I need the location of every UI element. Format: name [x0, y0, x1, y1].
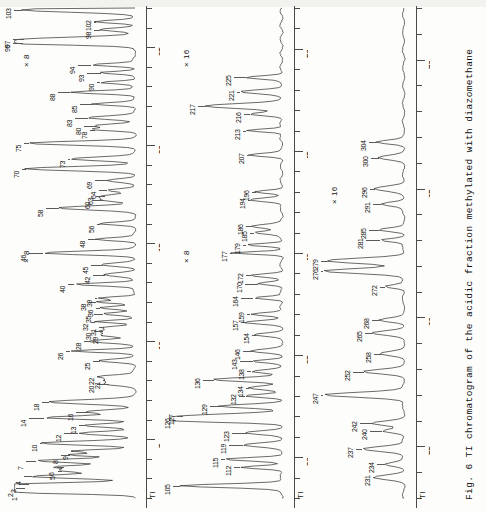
- peak-number-label: 32: [82, 324, 89, 331]
- peak-leader-line: [245, 284, 258, 285]
- peak-leader-line: [380, 287, 385, 288]
- peak-leader-line: [97, 376, 100, 377]
- peak-leader-line: [369, 230, 380, 231]
- peak-leader-line: [372, 320, 379, 321]
- peak-leader-line: [210, 406, 220, 407]
- peak-leader-line: [94, 30, 100, 31]
- peak-number-label: 102: [85, 20, 92, 30]
- peak-number-label: 2: [7, 494, 14, 498]
- peak-number-label: 5: [49, 476, 56, 480]
- peak-leader-line: [46, 208, 60, 209]
- peak-number-label: 1: [11, 498, 18, 502]
- peak-number-label: 16: [67, 414, 74, 421]
- peak-leader-line: [103, 380, 106, 381]
- chromatogram-panel-1: 510152025TI× 8× 812345678910121314161820…: [0, 0, 160, 512]
- peak-leader-line: [374, 354, 381, 355]
- peak-number-label: 216: [235, 113, 242, 123]
- peak-number-label: 94: [69, 67, 76, 74]
- peak-leader-line: [96, 308, 100, 309]
- peak-number-label: 40: [59, 286, 66, 293]
- peak-number-label: 179: [234, 243, 241, 253]
- peak-number-label: 164: [232, 296, 239, 306]
- peak-number-label: 300: [362, 156, 369, 166]
- peak-number-label: 46: [20, 255, 27, 262]
- peak-number-label: 138: [238, 370, 245, 380]
- peak-number-label: 225: [225, 76, 232, 86]
- peak-number-label: 159: [238, 313, 245, 323]
- peak-leader-line: [76, 412, 88, 413]
- peak-leader-line: [250, 233, 254, 234]
- peak-leader-line: [203, 380, 214, 381]
- peak-leader-line: [252, 192, 255, 193]
- peak-number-label: 26: [57, 353, 64, 360]
- peak-number-label: 39: [86, 300, 93, 307]
- peak-leader-line: [252, 335, 256, 336]
- peak-leader-line: [243, 131, 245, 132]
- peak-leader-line: [370, 189, 375, 190]
- peak-number-label: 36: [87, 310, 94, 317]
- peak-leader-line: [93, 361, 100, 362]
- peak-leader-line: [370, 431, 382, 432]
- peak-leader-line: [79, 425, 86, 426]
- peak-number-label: 265: [356, 331, 363, 341]
- peak-number-label: 3: [10, 490, 17, 494]
- peak-leader-line: [68, 284, 74, 285]
- peak-number-label: 80: [75, 128, 82, 135]
- peak-leader-line: [90, 130, 95, 131]
- peak-number-label: 13: [70, 427, 77, 434]
- peak-number-label: 6: [48, 472, 55, 476]
- peak-leader-line: [373, 204, 381, 205]
- peak-number-label: 291: [364, 203, 371, 213]
- peak-number-label: 98: [85, 32, 92, 39]
- peak-number-label: 83: [66, 120, 73, 127]
- peak-number-label: 73: [59, 161, 66, 168]
- peak-number-label: 272: [371, 285, 378, 295]
- peak-number-label: 129: [201, 405, 208, 415]
- peak-leader-line: [321, 271, 323, 272]
- peak-leader-line: [29, 418, 44, 419]
- peak-number-label: 115: [212, 458, 219, 468]
- peak-number-label: 213: [234, 129, 241, 139]
- peak-leader-line: [87, 73, 101, 74]
- peak-leader-line: [247, 314, 250, 315]
- peak-leader-line: [71, 451, 74, 452]
- peak-number-label: 221: [228, 90, 235, 100]
- peak-number-label: 242: [351, 422, 358, 432]
- peak-number-label: 240: [361, 429, 368, 439]
- peak-number-label: 186: [237, 225, 244, 235]
- peak-leader-line: [14, 10, 21, 11]
- peak-leader-line: [243, 351, 252, 352]
- peak-leader-line: [24, 476, 33, 477]
- peak-number-label: 12: [55, 435, 62, 442]
- peak-number-label: 103: [5, 8, 12, 18]
- peak-leader-line: [232, 433, 247, 434]
- peak-number-label: 9: [62, 456, 69, 460]
- peak-leader-line: [91, 265, 102, 266]
- peak-number-label: 132: [230, 394, 237, 404]
- peak-number-label: 154: [243, 333, 250, 343]
- peak-leader-line: [58, 92, 70, 93]
- peak-number-label: 276: [312, 270, 319, 280]
- figure-caption-area: Fig. 6 TI chromatogram of the acidic fra…: [430, 0, 486, 512]
- peak-leader-line: [101, 335, 103, 336]
- peak-leader-line: [20, 492, 22, 493]
- peak-leader-line: [93, 200, 104, 201]
- chromatogram-panel-2: 3035404550TI× 8× 16105112115119123126127…: [160, 0, 308, 512]
- peak-leader-line: [84, 341, 87, 342]
- peak-leader-line: [237, 92, 240, 93]
- peak-leader-line: [240, 361, 254, 362]
- peak-number-label: 207: [238, 154, 245, 164]
- peak-leader-line: [246, 275, 251, 276]
- chromatogram-panel-3: 55606570TI× 1623123423724024224725225826…: [308, 0, 430, 512]
- peak-number-label: 78: [81, 132, 88, 139]
- peak-leader-line: [75, 118, 87, 119]
- peak-leader-line: [373, 477, 375, 478]
- peak-number-label: 7: [17, 466, 24, 470]
- peak-leader-line: [16, 488, 25, 489]
- peak-leader-line: [13, 43, 23, 44]
- peak-number-label: 56: [88, 226, 95, 233]
- peak-number-label: 296: [361, 187, 368, 197]
- peak-number-label: 231: [364, 476, 371, 486]
- peak-number-label: 90: [88, 84, 95, 91]
- peak-leader-line: [80, 104, 93, 105]
